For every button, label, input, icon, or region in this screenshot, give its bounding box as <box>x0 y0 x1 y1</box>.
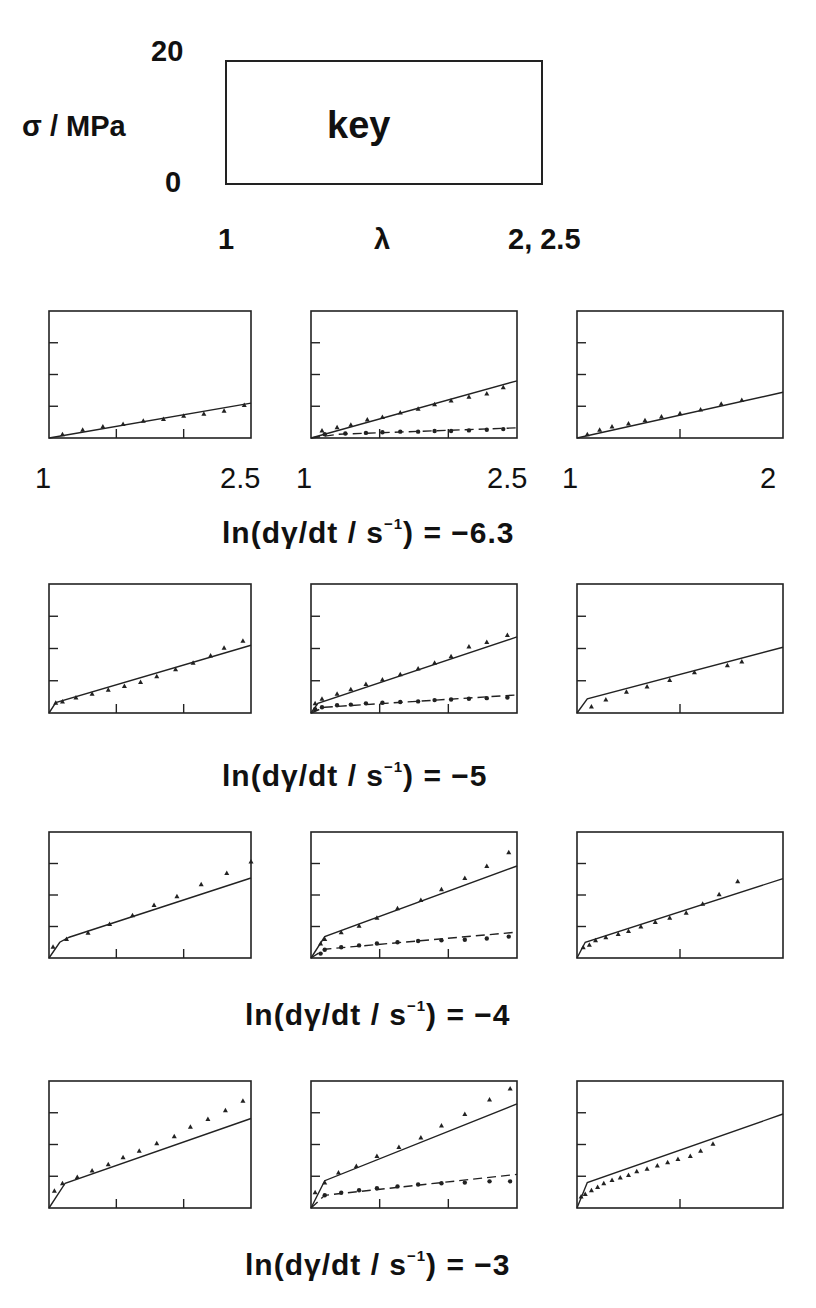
circle-marker <box>349 702 353 706</box>
panel-r1-c2 <box>311 311 517 438</box>
panel-r4-c3 <box>577 1081 783 1208</box>
triangle-marker <box>725 663 730 668</box>
triangle-marker <box>466 644 471 649</box>
triangle-marker <box>335 425 340 430</box>
triangle-marker <box>137 1148 142 1153</box>
triangle-marker <box>138 680 143 685</box>
triangle-marker <box>335 691 340 696</box>
triangle-marker <box>645 684 650 689</box>
row-caption-1: ln(dγ/dt / s−1) = −6.3 <box>222 515 515 550</box>
col2-x-min: 1 <box>296 462 312 495</box>
panel-r1-c3 <box>577 311 783 438</box>
key-x-min-label: 1 <box>218 223 234 256</box>
circle-marker <box>463 938 467 942</box>
triangle-marker <box>587 942 592 947</box>
triangle-marker <box>222 645 227 650</box>
panel-r3-c2 <box>311 832 517 958</box>
model-solid-line <box>49 403 251 438</box>
panel-frame <box>49 311 251 438</box>
circle-marker <box>463 1180 467 1184</box>
triangle-marker <box>374 1153 379 1158</box>
triangle-marker <box>439 1123 444 1128</box>
key-y-min-label: 0 <box>165 166 181 199</box>
triangle-marker <box>484 391 489 396</box>
col3-x-max: 2 <box>760 462 776 495</box>
triangle-marker <box>688 1153 693 1158</box>
model-solid-line <box>49 645 251 713</box>
triangle-marker <box>122 683 127 688</box>
key-x-max-label: 2, 2.5 <box>508 223 581 256</box>
model-dashed-line <box>311 932 517 958</box>
triangle-marker <box>172 1134 177 1139</box>
triangle-marker <box>51 944 56 949</box>
triangle-marker <box>487 1097 492 1102</box>
triangle-marker <box>659 414 664 419</box>
panel-r2-c2 <box>311 584 517 713</box>
triangle-marker <box>240 1098 245 1103</box>
triangle-marker <box>249 859 254 864</box>
key-box-label: key <box>327 104 390 147</box>
circle-marker <box>318 951 322 955</box>
circle-marker <box>416 939 420 943</box>
panel-frame <box>311 311 517 438</box>
triangle-marker <box>735 879 740 884</box>
triangle-marker <box>710 1141 715 1146</box>
panel-r4-c1 <box>49 1081 251 1208</box>
panel-r2-c1 <box>49 584 251 713</box>
triangle-marker <box>90 1168 95 1173</box>
model-solid-line <box>577 879 783 958</box>
panel-frame <box>49 584 251 713</box>
model-solid-line <box>577 647 783 713</box>
col2-x-max: 2.5 <box>487 462 527 495</box>
row-caption-4: ln(dγ/dt / s−1) = −3 <box>245 1247 511 1282</box>
triangle-marker <box>645 1166 650 1171</box>
triangle-marker <box>624 689 629 694</box>
panel-frame <box>311 584 517 713</box>
triangle-marker <box>589 1188 594 1193</box>
triangle-marker <box>610 1178 615 1183</box>
triangle-marker <box>505 632 510 637</box>
col1-x-min: 1 <box>35 462 51 495</box>
triangle-marker <box>154 1141 159 1146</box>
panel-r4-c2 <box>311 1081 517 1208</box>
triangle-marker <box>597 427 602 432</box>
triangle-marker <box>484 640 489 645</box>
triangle-marker <box>618 1175 623 1180</box>
triangle-marker <box>462 1112 467 1117</box>
triangle-marker <box>675 1157 680 1162</box>
circle-marker <box>507 934 511 938</box>
key-y-axis-label: σ / MPa <box>22 110 126 143</box>
circle-marker <box>432 429 436 433</box>
triangle-marker <box>508 1086 513 1091</box>
triangle-marker <box>655 1163 660 1168</box>
triangle-marker <box>80 427 85 432</box>
triangle-marker <box>319 428 324 433</box>
triangle-marker <box>106 1162 111 1167</box>
triangle-marker <box>188 1124 193 1129</box>
triangle-marker <box>667 678 672 683</box>
triangle-marker <box>313 1190 318 1195</box>
triangle-marker <box>152 903 157 908</box>
circle-marker <box>508 1179 512 1183</box>
circle-marker <box>501 427 505 431</box>
triangle-marker <box>439 887 444 892</box>
panel-frame <box>49 832 251 958</box>
model-solid-line <box>49 878 251 958</box>
triangle-marker <box>589 704 594 709</box>
triangle-marker <box>365 417 370 422</box>
circle-marker <box>485 428 489 432</box>
panel-frame <box>577 311 783 438</box>
model-solid-line <box>311 866 517 958</box>
triangle-marker <box>626 421 631 426</box>
circle-marker <box>487 1179 491 1183</box>
triangle-marker <box>610 424 615 429</box>
row-caption-2: ln(dγ/dt / s−1) = −5 <box>222 758 488 793</box>
triangle-marker <box>319 696 324 701</box>
triangle-marker <box>739 659 744 664</box>
triangle-marker <box>396 1145 401 1150</box>
triangle-marker <box>642 418 647 423</box>
panel-r3-c3 <box>577 832 783 958</box>
triangle-marker <box>348 687 353 692</box>
row-caption-3: ln(dγ/dt / s−1) = −4 <box>245 997 511 1032</box>
triangle-marker <box>223 1108 228 1113</box>
